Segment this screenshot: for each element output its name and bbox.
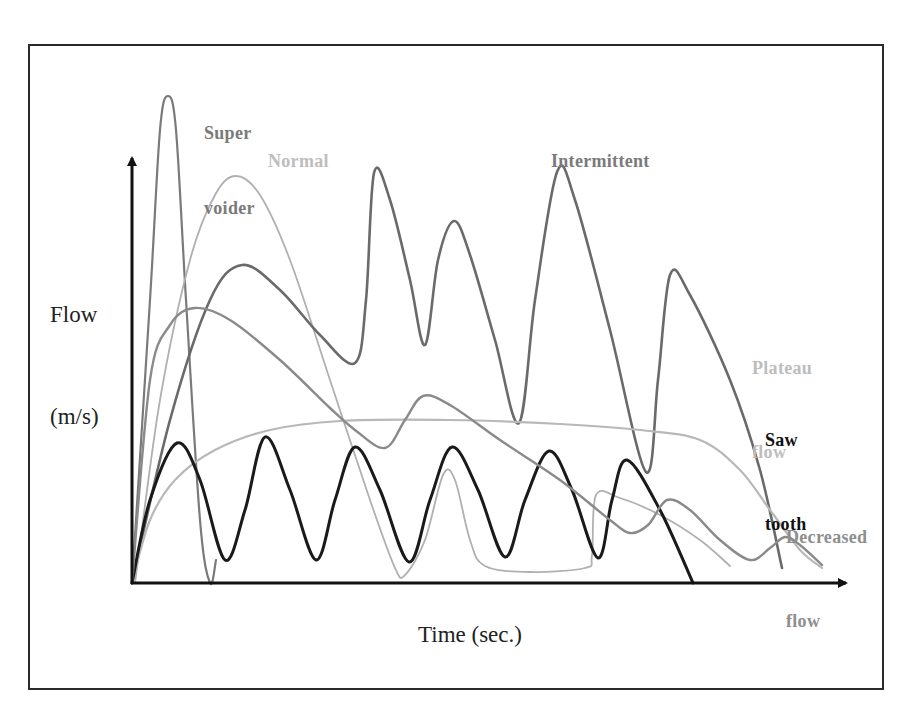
label-intermittent: Intermittent [551, 150, 650, 172]
label-super-voider-line2: voider [204, 196, 255, 221]
y-axis-title-line2: (m/s) [50, 400, 99, 434]
label-normal: Normal [268, 150, 329, 172]
label-super-voider: Super voider [204, 71, 255, 271]
x-axis-title: Time (sec.) [418, 618, 522, 652]
flow-pattern-diagram: Flow (m/s) Time (sec.) Super voider Norm… [0, 0, 918, 720]
label-super-voider-line1: Super [204, 121, 255, 146]
label-decreased-line1: Decreased [786, 523, 867, 551]
y-axis-title: Flow (m/s) [50, 230, 99, 502]
label-decreased-flow: Decreased flow [786, 467, 867, 691]
label-saw-tooth-line1: Saw [765, 426, 807, 454]
y-axis-title-line1: Flow [50, 298, 99, 332]
label-decreased-line2: flow [786, 607, 867, 635]
